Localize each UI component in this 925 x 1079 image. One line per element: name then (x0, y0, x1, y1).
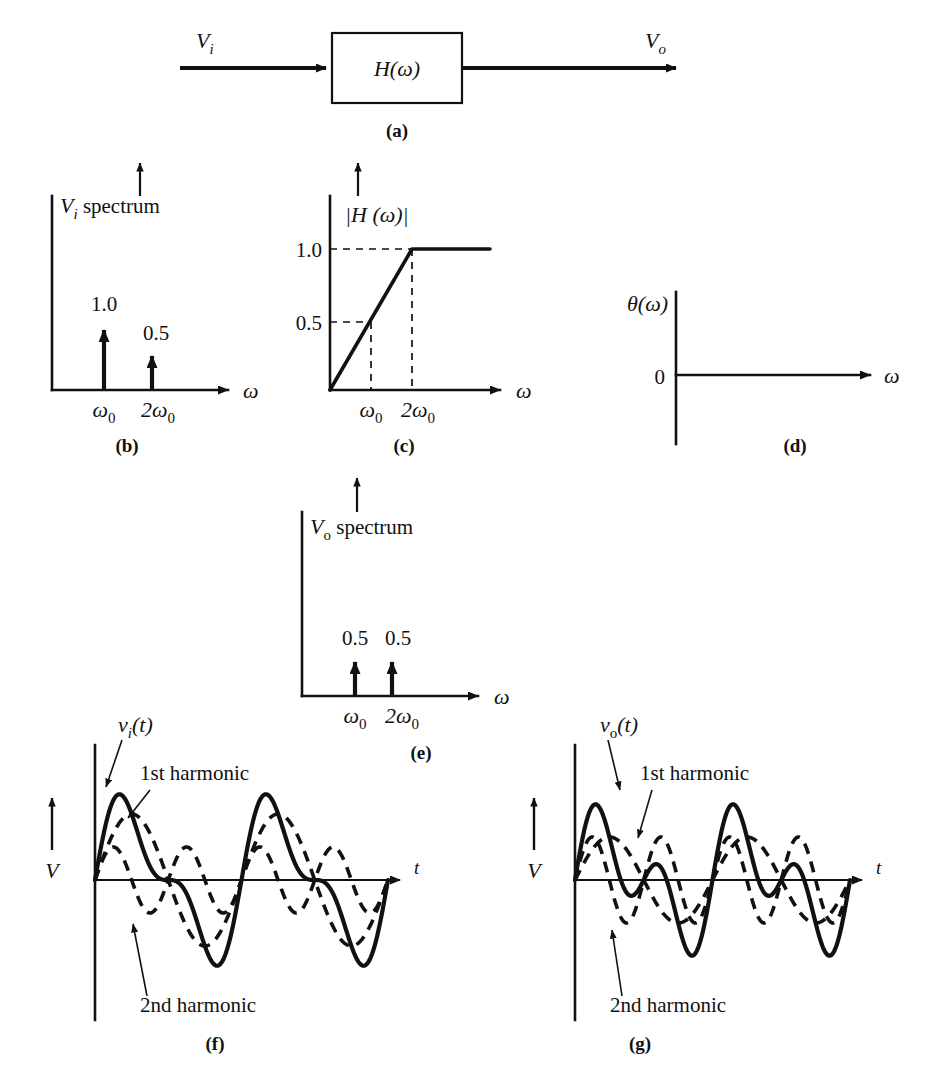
panel-e-output-spectrum: ω Vo spectrum 0.5 0.5 ω0 2ω0 (e) (302, 478, 510, 764)
panel-e-axis-title: Vo spectrum (310, 514, 413, 543)
panel-b-tick-fundamental: ω0 (92, 397, 115, 426)
panel-e-value-fundamental: 0.5 (342, 626, 368, 650)
panel-b-value-second: 0.5 (143, 321, 169, 345)
panel-b-input-spectrum: ω Vi spectrum 1.0 0.5 ω0 2ω0 (b) (52, 163, 259, 457)
panel-g-signal-leader (608, 740, 620, 790)
input-voltage-label: Vi (196, 28, 214, 57)
panel-c-response-curve (330, 249, 490, 390)
output-voltage-label: Vo (645, 28, 666, 57)
panel-f-y-axis-label: V (45, 858, 61, 883)
panel-e-caption: (e) (410, 742, 431, 764)
panel-g-y-axis-label: V (527, 858, 543, 883)
panel-b-x-axis-label: ω (243, 378, 259, 403)
panel-c-magnitude-response: ω |H (ω)| 1.0 0.5 ω0 2ω0 (c) (296, 163, 532, 457)
panel-e-x-axis-label: ω (494, 684, 510, 709)
panel-b-value-fundamental: 1.0 (91, 292, 117, 316)
panel-f-x-axis-label: t (414, 857, 420, 878)
panel-c-caption: (c) (393, 435, 414, 457)
panel-g-caption: (g) (629, 1033, 651, 1055)
panel-f-second-harmonic-leader (133, 924, 147, 996)
panel-e-value-second: 0.5 (385, 626, 411, 650)
panel-f-caption: (f) (206, 1033, 225, 1055)
panel-g-signal-label: vo(t) (600, 712, 638, 741)
panel-c-ytick-0p5: 0.5 (296, 311, 322, 335)
panel-g-x-axis-label: t (876, 857, 882, 878)
panel-g-output-waveform: t V vo(t) 1st harmonic 2nd harmonic (g) (527, 712, 882, 1055)
panel-f-signal-leader (106, 740, 122, 787)
panel-g-first-harmonic-leader (638, 790, 652, 838)
panel-b-caption: (b) (115, 435, 138, 457)
panel-f-signal-label: vi(t) (118, 712, 153, 741)
panel-c-xtick-2w0: 2ω0 (401, 397, 435, 426)
panel-d-zero-label: 0 (655, 365, 666, 389)
panel-g-second-harmonic-leader (612, 930, 622, 996)
panel-e-tick-second: 2ω0 (385, 703, 419, 732)
panel-c-x-axis-label: ω (516, 378, 532, 403)
panel-d-axis-title: θ(ω) (627, 291, 668, 316)
panel-d-phase-response: ω θ(ω) 0 (d) (627, 291, 900, 457)
figure-canvas: H(ω) Vi Vo (a) ω Vi spectrum 1.0 0.5 ω0 … (0, 0, 925, 1079)
panel-g-second-harmonic-label: 2nd harmonic (610, 993, 726, 1017)
panel-c-xtick-w0: ω0 (359, 397, 382, 426)
panel-a-block-diagram: H(ω) Vi Vo (a) (180, 28, 676, 142)
panel-f-second-harmonic-label: 2nd harmonic (140, 993, 256, 1017)
panel-a-caption: (a) (386, 120, 408, 142)
panel-f-input-waveform: t V vi(t) 1st harmonic 2nd harmonic (f) (45, 712, 420, 1055)
panel-c-axis-title: |H (ω)| (345, 202, 409, 227)
panel-d-x-axis-label: ω (884, 363, 900, 388)
panel-b-axis-title: Vi spectrum (60, 193, 160, 222)
panel-f-first-harmonic-label: 1st harmonic (140, 761, 249, 785)
panel-e-tick-fundamental: ω0 (343, 703, 366, 732)
panel-c-ytick-1p0: 1.0 (296, 238, 322, 262)
panel-b-tick-second: 2ω0 (141, 397, 175, 426)
panel-d-caption: (d) (783, 435, 806, 457)
panel-g-first-harmonic-label: 1st harmonic (640, 761, 749, 785)
panel-f-first-harmonic-leader (128, 790, 150, 818)
transfer-function-label: H(ω) (373, 56, 420, 81)
